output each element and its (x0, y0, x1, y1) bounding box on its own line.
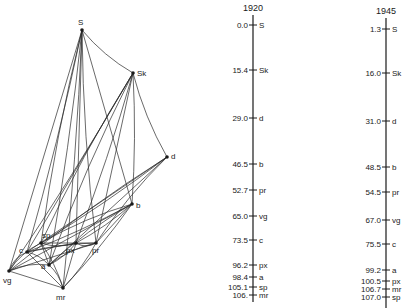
node-sp (39, 241, 43, 245)
tick-label-1920-mr: mr (259, 291, 269, 300)
tick-label-1920-px: px (259, 261, 267, 270)
node-px (74, 241, 78, 245)
node-label-S: S (78, 18, 83, 27)
node-label-mr: mr (56, 293, 66, 302)
tick-value-1920-px: 96.2 (232, 261, 248, 270)
node-S (80, 28, 84, 32)
tick-value-1945-S: 1.3 (370, 25, 382, 34)
tick-label-1945-sp: sp (392, 293, 401, 302)
node-label-vg: vg (3, 276, 11, 285)
tick-label-1920-vg: vg (259, 212, 267, 221)
tick-label-1945-pr: pr (392, 188, 399, 197)
node-vg (7, 269, 11, 273)
node-pr (94, 241, 98, 245)
tick-label-1945-a: a (392, 266, 397, 275)
diagram-canvas: SSkdbspcpxpravgmr 19200.0S15.4Sk29.0d46.… (0, 0, 404, 308)
tick-value-1945-Sk: 16.0 (365, 69, 381, 78)
tick-value-1945-a: 99.2 (365, 266, 381, 275)
node-label-b: b (136, 201, 141, 210)
node-Sk (131, 71, 135, 75)
edge-S-pr (82, 30, 96, 243)
tick-label-1945-S: S (392, 25, 397, 34)
edge-S-Sk (82, 30, 133, 73)
edge-b-px (76, 204, 132, 243)
tick-value-1945-vg: 67.0 (365, 216, 381, 225)
tick-value-1920-b: 46.5 (232, 160, 248, 169)
tick-value-1920-d: 29.0 (232, 114, 248, 123)
tick-value-1920-c: 73.5 (232, 236, 248, 245)
edge-Sk-vg (9, 73, 133, 271)
node-c (25, 250, 29, 254)
edge-Sk-a (49, 73, 133, 265)
tick-value-1920-mr: 106. (232, 291, 248, 300)
tick-label-1920-Sk: Sk (259, 66, 269, 75)
node-label-px: px (66, 246, 74, 255)
tick-value-1920-vg: 65.0 (232, 212, 248, 221)
tick-label-1920-c: c (259, 236, 263, 245)
edge-Sk-b (132, 73, 135, 204)
axis-1920: 19200.0S15.4Sk29.0d46.5b52.7pr65.0vg73.5… (228, 3, 269, 302)
node-a (47, 263, 51, 267)
node-label-a: a (41, 262, 46, 271)
node-label-c: c (19, 246, 23, 255)
tick-value-1920-Sk: 15.4 (232, 66, 248, 75)
tick-label-1945-b: b (392, 163, 397, 172)
tick-value-1920-pr: 52.7 (232, 186, 248, 195)
tick-value-1920-a: 98.4 (232, 273, 248, 282)
axis-year-label-1920: 1920 (243, 3, 263, 13)
edge-d-pr (96, 157, 167, 243)
scale-axes: 19200.0S15.4Sk29.0d46.5b52.7pr65.0vg73.5… (228, 3, 402, 308)
edge-Sk-d (133, 73, 167, 157)
tick-value-1945-sp: 107.0 (361, 293, 382, 302)
edge-Sk-px (76, 73, 133, 243)
node-label-Sk: Sk (137, 69, 147, 78)
tick-label-1920-pr: pr (259, 186, 266, 195)
tick-label-1945-vg: vg (392, 216, 400, 225)
network-graph: SSkdbspcpxpravgmr (3, 18, 175, 302)
edge-c-pr (27, 243, 96, 252)
tick-label-1920-b: b (259, 160, 264, 169)
axis-year-label-1945: 1945 (376, 6, 396, 16)
edge-S-px (76, 30, 82, 243)
node-b (130, 202, 134, 206)
tick-label-1945-c: c (392, 240, 396, 249)
tick-value-1945-b: 48.5 (365, 163, 381, 172)
tick-value-1920-S: 0.0 (237, 21, 249, 30)
node-label-pr: pr (92, 246, 99, 255)
node-d (165, 155, 169, 159)
node-label-d: d (171, 152, 175, 161)
axis-1945: 19451.3S16.0Sk31.0d48.5b54.5pr67.0vg75.5… (361, 6, 402, 308)
node-label-sp: sp (42, 231, 51, 240)
tick-label-1945-d: d (392, 117, 396, 126)
tick-value-1945-pr: 54.5 (365, 188, 381, 197)
tick-value-1945-d: 31.0 (365, 117, 381, 126)
tick-label-1920-S: S (259, 21, 264, 30)
tick-label-1920-a: a (259, 273, 264, 282)
tick-label-1945-Sk: Sk (392, 69, 402, 78)
node-mr (61, 286, 65, 290)
tick-label-1920-d: d (259, 114, 263, 123)
tick-value-1945-c: 75.5 (365, 240, 381, 249)
